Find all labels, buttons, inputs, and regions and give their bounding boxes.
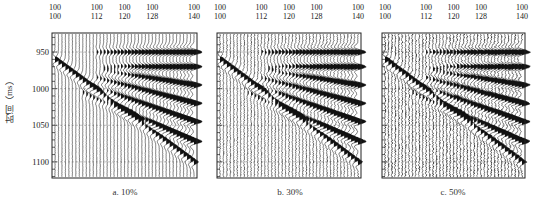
- y-tick-label: 950: [36, 47, 49, 57]
- top-tick-label: 100: [146, 3, 158, 12]
- top-tick-label: 128: [146, 12, 158, 21]
- top-tick-label: 100: [352, 3, 364, 12]
- trace-wiggle: [460, 34, 470, 177]
- panel-c: 100100100112100120100128100140: [379, 3, 530, 178]
- top-tick-label: 128: [311, 12, 323, 21]
- trace-wiggle: [255, 34, 264, 177]
- trace-fill: [72, 36, 77, 175]
- trace-fill: [392, 34, 397, 178]
- trace-wiggle: [456, 34, 468, 177]
- top-tick-label: 112: [420, 12, 432, 21]
- trace-wiggle: [386, 34, 394, 177]
- trace-fill: [251, 34, 255, 178]
- top-tick-label: 100: [214, 3, 226, 12]
- top-tick-label: 100: [379, 12, 391, 21]
- trace-wiggle: [90, 34, 99, 177]
- top-tick-label: 100: [49, 3, 61, 12]
- top-tick-label: 120: [448, 12, 460, 21]
- trace-wiggle: [102, 34, 107, 177]
- top-tick-label: 100: [448, 3, 460, 12]
- top-tick-label: 120: [119, 12, 131, 21]
- panel-a: 1001001001121001201001281001409501000105…: [32, 3, 202, 178]
- trace-fill: [135, 35, 141, 177]
- trace-wiggle: [296, 34, 305, 177]
- trace-wiggle: [269, 34, 274, 177]
- top-tick-label: 100: [214, 12, 226, 21]
- y-axis-label: 时间（ms）: [2, 70, 16, 130]
- y-tick-label: 1100: [32, 157, 49, 167]
- trace-fill: [111, 37, 114, 177]
- top-tick-label: 128: [475, 12, 487, 21]
- top-tick-label: 100: [119, 3, 131, 12]
- trace-fill: [433, 34, 436, 178]
- top-tick-label: 100: [475, 3, 487, 12]
- trace-wiggle: [86, 34, 95, 177]
- top-tick-label: 100: [420, 3, 432, 12]
- top-tick-label: 120: [283, 12, 295, 21]
- panel-b: 100100100112100120100128100140: [214, 3, 366, 178]
- top-tick-label: 140: [188, 12, 200, 21]
- top-tick-label: 112: [256, 12, 268, 21]
- top-tick-label: 100: [283, 3, 295, 12]
- top-tick-label: 100: [516, 3, 528, 12]
- top-tick-label: 100: [91, 3, 103, 12]
- caption-panel-b: b. 30%: [250, 187, 330, 197]
- top-tick-label: 100: [311, 3, 323, 12]
- trace-wiggle: [416, 34, 426, 177]
- trace-wiggle: [430, 34, 435, 177]
- top-tick-label: 100: [188, 3, 200, 12]
- trace-fill: [358, 35, 366, 178]
- trace-fill: [163, 37, 169, 177]
- trace-fill: [220, 35, 225, 178]
- seismic-figure: 1001001001121001201001281001409501000105…: [0, 0, 540, 205]
- top-tick-label: 100: [49, 12, 61, 21]
- trace-wiggle: [266, 34, 271, 177]
- trace-wiggle: [251, 34, 260, 177]
- trace-fill: [62, 36, 66, 175]
- trace-wiggle: [105, 34, 109, 177]
- trace-fill: [275, 37, 278, 178]
- trace-wiggle: [132, 34, 141, 177]
- top-tick-label: 140: [516, 12, 528, 21]
- top-tick-label: 140: [352, 12, 364, 21]
- trace-fill: [90, 34, 96, 178]
- top-tick-label: 112: [91, 12, 103, 21]
- y-tick-label: 1050: [32, 120, 49, 130]
- trace-fill: [223, 35, 228, 178]
- trace-fill: [107, 34, 109, 177]
- trace-fill: [104, 35, 107, 178]
- top-tick-label: 100: [255, 3, 267, 12]
- y-tick-label: 1000: [32, 84, 49, 94]
- caption-panel-c: c. 50%: [413, 187, 493, 197]
- top-tick-label: 100: [379, 3, 391, 12]
- caption-panel-a: a. 10%: [85, 187, 165, 197]
- trace-fill: [244, 34, 249, 177]
- trace-wiggle: [434, 34, 439, 177]
